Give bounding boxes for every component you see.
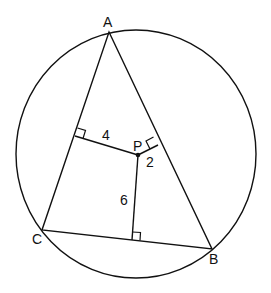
length-label-ab: 2 xyxy=(146,154,154,170)
right-angle-marker-cb xyxy=(133,232,141,241)
label-p: P xyxy=(133,138,142,154)
triangle-abc xyxy=(42,32,212,249)
length-label-ac: 4 xyxy=(102,127,110,143)
perpendicular-to-cb xyxy=(132,155,138,240)
label-a: A xyxy=(103,14,113,30)
label-c: C xyxy=(32,231,42,247)
length-label-cb: 6 xyxy=(120,192,128,208)
geometry-diagram: A B C P 4 2 6 xyxy=(0,0,271,293)
label-b: B xyxy=(209,251,218,267)
